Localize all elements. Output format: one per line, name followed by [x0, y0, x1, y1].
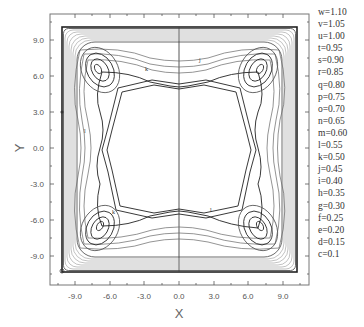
y-tick-label: 9.0 — [33, 36, 45, 45]
svg-text:l: l — [84, 128, 86, 134]
legend-item: s=0.90 — [318, 54, 347, 66]
legend-item: q=0.80 — [318, 79, 347, 91]
y-tick-label: -9.0 — [30, 252, 44, 261]
legend-item: i=0.40 — [318, 175, 347, 187]
svg-text:l: l — [210, 207, 212, 213]
legend-item: h=0.35 — [318, 187, 347, 199]
svg-text:k: k — [145, 66, 148, 72]
y-tick-label: 0.0 — [33, 144, 45, 153]
x-axis-title: X — [175, 306, 184, 321]
legend-item: t=0.95 — [318, 42, 347, 54]
legend-item: v=1.05 — [318, 18, 347, 30]
svg-text:k: k — [112, 209, 115, 215]
legend-item: n=0.65 — [318, 115, 347, 127]
legend-item: d=0.15 — [318, 236, 347, 248]
y-tick-label: 3.0 — [33, 108, 45, 117]
x-tick-label: 3.0 — [208, 292, 220, 301]
legend-item: l=0.55 — [318, 139, 347, 151]
y-tick-label: -6.0 — [30, 216, 44, 225]
y-tick-labels: 9.0 6.0 3.0 0.0 -3.0 -6.0 -9.0 — [30, 36, 44, 261]
x-tick-label: -9.0 — [68, 292, 82, 301]
x-tick-label: 6.0 — [242, 292, 254, 301]
x-tick-label: 9.0 — [277, 292, 289, 301]
legend-item: e=0.20 — [318, 224, 347, 236]
legend-item: u=1.00 — [318, 30, 347, 42]
edge-marker — [61, 111, 64, 114]
contour-plot: -9.0 -6.0 -3.0 0.0 3.0 6.0 9.0 9.0 6.0 3… — [0, 0, 364, 327]
x-tick-label: -3.0 — [137, 292, 151, 301]
cross-contours — [74, 49, 284, 249]
legend-item: c=0.1 — [318, 248, 347, 260]
legend-item: m=0.60 — [318, 127, 347, 139]
legend-item: j=0.45 — [318, 163, 347, 175]
legend-item: o=0.70 — [318, 103, 347, 115]
y-tick-label: 6.0 — [33, 72, 45, 81]
y-tick-label: -3.0 — [30, 180, 44, 189]
legend-item: w=1.10 — [318, 6, 347, 18]
data-frame — [62, 27, 297, 272]
contour-legend: w=1.10 v=1.05 u=1.00 t=0.95 s=0.90 r=0.8… — [318, 6, 347, 260]
legend-item: f=0.25 — [318, 212, 347, 224]
x-tick-label: -6.0 — [103, 292, 117, 301]
legend-item: k=0.50 — [318, 151, 347, 163]
legend-item: g=0.30 — [318, 200, 347, 212]
x-tick-labels: -9.0 -6.0 -3.0 0.0 3.0 6.0 9.0 — [68, 292, 289, 301]
y-axis-title: Y — [12, 143, 27, 152]
legend-item: r=0.85 — [318, 66, 347, 78]
x-tick-label: 0.0 — [173, 292, 185, 301]
svg-text:j: j — [198, 57, 201, 63]
legend-item: p=0.75 — [318, 91, 347, 103]
